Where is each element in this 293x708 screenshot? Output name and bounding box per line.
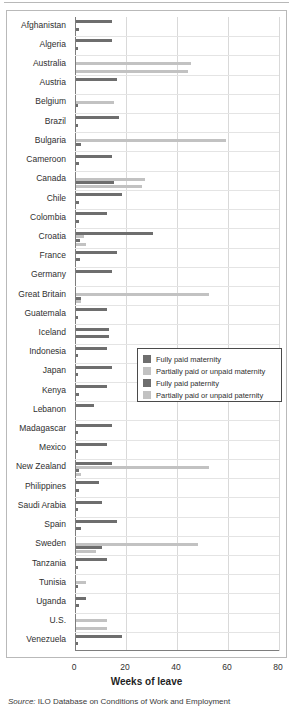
category-label-mexico: Mexico (0, 443, 66, 452)
row-separator (75, 344, 279, 345)
bar-indonesia-0 (76, 347, 107, 350)
category-label-kenya: Kenya (0, 386, 66, 395)
row-separator (75, 478, 279, 479)
legend-swatch-icon (143, 355, 151, 363)
legend-swatch-icon (143, 391, 151, 399)
bar-japan-0 (76, 366, 112, 369)
row-separator (75, 36, 279, 37)
category-label-brazil: Brazil (0, 117, 66, 126)
x-axis-ticks: 020406080 (74, 660, 278, 674)
row-separator (75, 151, 279, 152)
bar-venezuela-0 (76, 635, 122, 638)
bar-tunisia-1 (76, 581, 86, 584)
bar-philippines-2 (76, 489, 79, 492)
row-separator (75, 613, 279, 614)
category-label-belgium: Belgium (0, 97, 66, 106)
bar-venezuela-2 (76, 642, 78, 645)
category-label-spain: Spain (0, 520, 66, 529)
bar-mexico-0 (76, 443, 107, 446)
bar-bulgaria-1 (76, 139, 226, 142)
bar-canada-3 (76, 185, 142, 188)
category-label-colombia: Colombia (0, 213, 66, 222)
bar-lebanon-0 (76, 404, 94, 407)
legend-label: Fully paid paternity (156, 379, 219, 388)
x-tick-20: 20 (120, 662, 129, 672)
row-separator (75, 459, 279, 460)
category-label-new-zealand: New Zealand (0, 462, 66, 471)
row-separator (75, 517, 279, 518)
row-separator (75, 228, 279, 229)
row-separator (75, 440, 279, 441)
row-separator (75, 536, 279, 537)
bar-afghanistan-0 (76, 20, 112, 23)
bar-colombia-2 (76, 220, 79, 223)
chart-legend: Fully paid maternityPartially paid or un… (137, 348, 282, 402)
category-label-uganda: Uganda (0, 597, 66, 606)
category-label-germany: Germany (0, 270, 66, 279)
bar-new-zealand-3 (76, 473, 81, 476)
x-tick-80: 80 (273, 662, 282, 672)
category-axis-labels: AfghanistanAlgeriaAustraliaAustriaBelgiu… (0, 16, 66, 650)
row-separator (75, 190, 279, 191)
bar-tanzania-0 (76, 558, 107, 561)
bar-croatia-0 (76, 232, 153, 235)
bar-croatia-1 (76, 235, 84, 238)
bar-germany-0 (76, 270, 112, 273)
bar-cameroon-0 (76, 155, 112, 158)
row-separator (75, 593, 279, 594)
bar-guatemala-0 (76, 308, 107, 311)
category-label-lebanon: Lebanon (0, 405, 66, 414)
bar-sweden-3 (76, 550, 96, 553)
source-text: ILO Database on Conditions of Work and E… (36, 697, 231, 706)
bar-cameroon-2 (76, 162, 79, 165)
legend-item-partially_paid_paternity: Partially paid or unpaid paternity (143, 389, 277, 401)
category-label-france: France (0, 251, 66, 260)
bar-great-britain-3 (76, 300, 81, 303)
category-label-iceland: Iceland (0, 328, 66, 337)
bar-kenya-2 (76, 393, 79, 396)
category-label-sweden: Sweden (0, 539, 66, 548)
bar-kenya-0 (76, 385, 107, 388)
legend-item-fully_paid_maternity: Fully paid maternity (143, 353, 277, 365)
category-label-saudi-arabia: Saudi Arabia (0, 501, 66, 510)
row-separator (75, 555, 279, 556)
bar-indonesia-2 (76, 354, 78, 357)
bar-algeria-0 (76, 39, 112, 42)
category-label-philippines: Philippines (0, 482, 66, 491)
bar-bulgaria-2 (76, 143, 81, 146)
bar-tunisia-2 (76, 585, 78, 588)
bar-tanzania-2 (76, 566, 78, 569)
bar-austria-0 (76, 78, 117, 81)
bar-brazil-0 (76, 116, 119, 119)
legend-label: Partially paid or unpaid maternity (156, 367, 265, 376)
category-label-australia: Australia (0, 59, 66, 68)
legend-swatch-icon (143, 367, 151, 375)
category-label-chile: Chile (0, 194, 66, 203)
category-label-guatemala: Guatemala (0, 309, 66, 318)
x-tick-0: 0 (72, 662, 77, 672)
bar-afghanistan-2 (76, 28, 79, 31)
bar-new-zealand-2 (76, 469, 79, 472)
bar-algeria-2 (76, 47, 78, 50)
row-separator (75, 171, 279, 172)
category-label-algeria: Algeria (0, 40, 66, 49)
source-note: Source: ILO Database on Conditions of Wo… (8, 697, 293, 706)
row-separator (75, 209, 279, 210)
bar-guatemala-2 (76, 316, 78, 319)
bar-mexico-2 (76, 450, 78, 453)
bar-sweden-1 (76, 543, 198, 546)
row-separator (75, 55, 279, 56)
category-label-japan: Japan (0, 366, 66, 375)
bar-new-zealand-0 (76, 462, 112, 465)
bar-saudi-arabia-2 (76, 508, 78, 511)
legend-swatch-icon (143, 379, 151, 387)
category-label-venezuela: Venezuela (0, 635, 66, 644)
bar-brazil-2 (76, 124, 78, 127)
bar-philippines-0 (76, 481, 99, 484)
row-separator (75, 113, 279, 114)
plot-area (75, 17, 279, 651)
category-label-afghanistan: Afghanistan (0, 21, 66, 30)
legend-item-partially_paid_maternity: Partially paid or unpaid maternity (143, 365, 277, 377)
bar-australia-1 (76, 62, 191, 65)
row-separator (75, 94, 279, 95)
